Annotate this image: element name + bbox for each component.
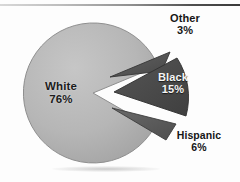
pie-drop-shadow — [52, 166, 160, 172]
pie-label-other: Other 3% — [158, 12, 212, 37]
pie-label-hispanic-name: Hispanic — [168, 130, 230, 142]
pie-label-other-name: Other — [158, 12, 212, 24]
pie-label-black: Black 15% — [146, 71, 200, 96]
pie-chart-figure: White 76% Black 15% Other 3% Hispanic 6% — [0, 0, 240, 182]
pie-label-black-value: 15% — [146, 83, 200, 95]
pie-label-black-name: Black — [146, 71, 200, 83]
pie-label-white: White 76% — [30, 80, 92, 106]
pie-label-white-name: White — [30, 80, 92, 93]
pie-label-hispanic-value: 6% — [168, 142, 230, 154]
pie-label-hispanic: Hispanic 6% — [168, 130, 230, 154]
pie-label-other-value: 3% — [158, 24, 212, 36]
pie-label-white-value: 76% — [30, 93, 92, 106]
